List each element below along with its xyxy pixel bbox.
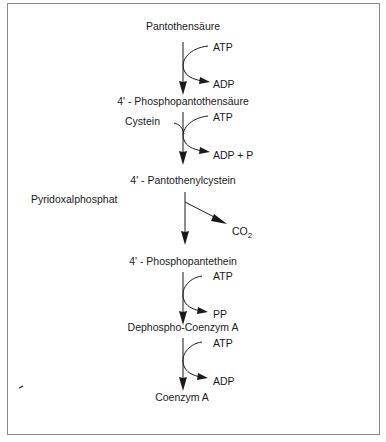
metabolite-coenzym-a: Coenzym A xyxy=(155,392,209,403)
co2-subscript: 2 xyxy=(248,231,252,240)
stray-mark xyxy=(19,386,23,388)
metabolite-pantothenylcystein: 4' - Pantothenylcystein xyxy=(130,175,235,186)
step-5-output: ADP xyxy=(213,376,235,387)
step-2-input: ATP xyxy=(213,112,233,123)
step-3-output: CO2 xyxy=(232,226,252,240)
pathway-arrows xyxy=(0,0,386,442)
step-1-output: ADP xyxy=(213,79,235,90)
step-1-input: ATP xyxy=(213,42,233,53)
metabolite-phosphopantethein: 4' - Phosphopantethein xyxy=(129,256,237,267)
step-3-cofactor: Pyridoxalphosphat xyxy=(31,194,117,205)
step-1-arrow xyxy=(179,42,210,95)
step-4-arrow xyxy=(179,272,208,325)
step-5-input: ATP xyxy=(213,338,233,349)
metabolite-dephospho-coenzym-a: Dephospho-Coenzym A xyxy=(128,322,239,333)
step-4-output: PP xyxy=(213,309,227,320)
step-2-cosubstrate: Cystein xyxy=(125,116,160,127)
co2-main: CO xyxy=(232,225,248,237)
step-3-arrow xyxy=(181,192,227,245)
step-5-arrow xyxy=(179,338,208,391)
step-4-input: ATP xyxy=(213,271,233,282)
step-2-arrow xyxy=(174,112,210,165)
metabolite-phosphopantothensaeure: 4' - Phosphopantothensäure xyxy=(117,96,249,107)
metabolite-pantothensaeure: Pantothensäure xyxy=(146,21,220,32)
step-2-output: ADP + P xyxy=(213,150,253,161)
